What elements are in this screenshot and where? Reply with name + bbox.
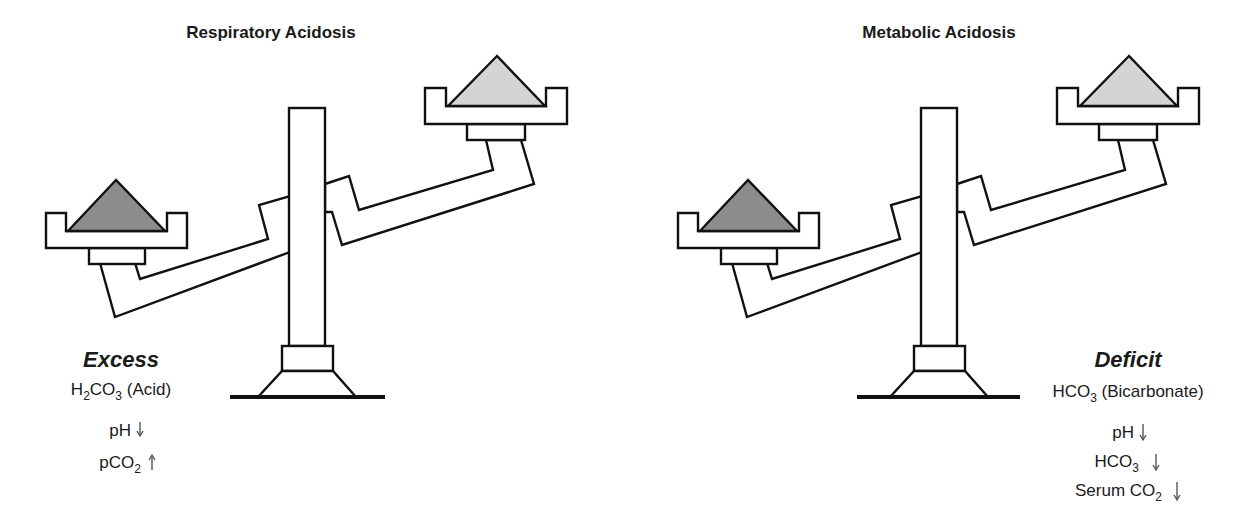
left-pan	[46, 180, 187, 264]
indicator-pco2: pCO2	[99, 453, 155, 476]
balance-scale	[678, 56, 1199, 397]
svg-text:pH: pH	[1112, 423, 1134, 442]
right-pan	[425, 56, 567, 140]
scale-base-block	[914, 346, 965, 371]
svg-text:pH: pH	[109, 421, 131, 440]
indicator-hco3: HCO3	[1095, 452, 1159, 475]
arrow-down-icon	[1174, 482, 1180, 500]
arrow-down-icon	[1153, 454, 1159, 470]
right-pan-stem	[467, 124, 525, 140]
excess-annotation: Excess H2CO3 (Acid) pH pCO2	[71, 347, 171, 476]
indicator-ph: pH	[1112, 423, 1146, 442]
scale-base-block	[282, 346, 333, 371]
deficit-annotation: Deficit HCO3 (Bicarbonate) pH HCO3 Serum…	[1052, 347, 1203, 504]
annotation-heading: Excess	[83, 347, 159, 372]
acid-weight-triangle-icon	[700, 180, 797, 231]
arrow-down-icon	[1140, 424, 1146, 440]
indicator-ph: pH	[109, 421, 143, 440]
respiratory-acidosis-panel: Respiratory Acidosis	[46, 23, 567, 476]
scale-beam-right-arm	[325, 140, 534, 245]
left-pan-stem	[721, 248, 777, 264]
panel-title: Respiratory Acidosis	[186, 23, 355, 42]
scale-beam-right-arm	[957, 140, 1166, 245]
svg-text:HCO3: HCO3	[1095, 452, 1140, 475]
substance-label: HCO3 (Bicarbonate)	[1052, 382, 1203, 405]
base-weight-triangle-icon	[1080, 56, 1177, 106]
scale-post	[921, 108, 957, 346]
substance-label: H2CO3 (Acid)	[71, 380, 171, 403]
scale-post	[289, 108, 325, 346]
right-pan	[1057, 56, 1199, 140]
scale-foot	[258, 371, 356, 397]
metabolic-acidosis-panel: Metabolic Acidosis Deficit HCO3 (Bicarbo…	[678, 23, 1204, 504]
acid-weight-triangle-icon	[68, 180, 165, 231]
annotation-heading: Deficit	[1094, 347, 1163, 372]
left-pan-stem	[89, 248, 145, 264]
base-weight-triangle-icon	[448, 56, 545, 106]
indicator-serum-co2: Serum CO2	[1075, 481, 1180, 504]
right-pan-stem	[1099, 124, 1157, 140]
arrow-up-icon	[149, 455, 155, 470]
balance-scale	[46, 56, 567, 397]
svg-text:Serum CO2: Serum CO2	[1075, 481, 1162, 504]
panel-title: Metabolic Acidosis	[862, 23, 1015, 42]
scale-foot	[890, 371, 988, 397]
left-pan	[678, 180, 819, 264]
svg-text:pCO2: pCO2	[99, 453, 141, 476]
arrow-down-icon	[137, 422, 143, 436]
acid-base-balance-diagram: Respiratory Acidosis	[0, 0, 1240, 531]
